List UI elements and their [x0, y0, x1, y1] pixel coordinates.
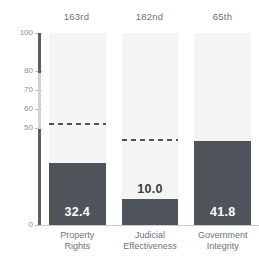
bar-government-integrity: 41.8 [194, 141, 251, 225]
column-background-judicial-effectiveness [122, 33, 179, 225]
reference-line-government-integrity [194, 141, 251, 143]
y-tick-label-100: 100 [20, 29, 33, 37]
rank-label-property-rights: 163rd [40, 8, 113, 26]
category-label-line-1: Property [42, 230, 113, 241]
y-tick-label-50: 50 [24, 124, 33, 132]
category-label-row: Property Rights Judicial Effectiveness G… [41, 230, 259, 260]
category-label-line-1: Government [187, 230, 258, 241]
bar-group-property-rights: 32.4 [41, 33, 114, 225]
y-tick-label-80: 80 [24, 67, 33, 75]
rank-label-government-integrity: 65th [186, 8, 259, 26]
reference-line-judicial-effectiveness [122, 139, 179, 141]
x-axis-baseline [38, 225, 259, 226]
bar-chart: 163rd 182nd 65th 100 80 70 60 50 0 32.4 [0, 0, 259, 261]
y-tick-label-70: 70 [24, 86, 33, 94]
category-label-line-2: Rights [42, 241, 113, 252]
bar-value-judicial-effectiveness: 10.0 [114, 182, 187, 196]
y-tick-label-0: 0 [29, 221, 33, 229]
category-label-line-1: Judicial [115, 230, 186, 241]
rank-label-judicial-effectiveness: 182nd [113, 8, 186, 26]
bar-property-rights: 32.4 [49, 163, 106, 225]
category-label-line-2: Effectiveness [115, 241, 186, 252]
y-tick-label-60: 60 [24, 105, 33, 113]
rank-label-row: 163rd 182nd 65th [40, 8, 259, 26]
bar-judicial-effectiveness [122, 199, 179, 225]
category-label-government-integrity: Government Integrity [186, 230, 259, 260]
bar-group-government-integrity: 41.8 [186, 33, 259, 225]
category-label-property-rights: Property Rights [41, 230, 114, 260]
category-label-judicial-effectiveness: Judicial Effectiveness [114, 230, 187, 260]
reference-line-property-rights [49, 123, 106, 125]
plot-area: 32.4 10.0 41.8 [41, 33, 259, 225]
bar-group-judicial-effectiveness: 10.0 [114, 33, 187, 225]
category-label-line-2: Integrity [187, 241, 258, 252]
bar-value-government-integrity: 41.8 [194, 205, 251, 219]
bar-value-property-rights: 32.4 [49, 205, 106, 219]
y-axis: 100 80 70 60 50 0 [0, 28, 42, 230]
